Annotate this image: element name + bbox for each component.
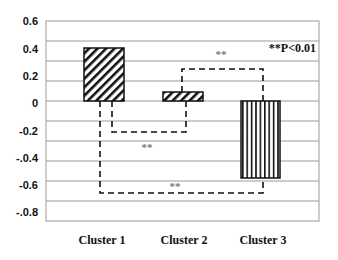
significance-stars-2-3: ** [216, 48, 228, 60]
bar-cluster-3 [241, 101, 280, 178]
y-tick: 0.6 [23, 15, 38, 27]
bar-cluster-1 [84, 48, 124, 101]
y-tick: -.0.4 [16, 152, 39, 164]
y-tick: -0.2 [19, 125, 38, 137]
x-axis-labels: Cluster 1 Cluster 2 Cluster 3 [79, 233, 287, 247]
p-value-note: **P<0.01 [269, 41, 316, 55]
y-tick: -.0.8 [16, 206, 38, 218]
significance-stars-1-3: ** [170, 180, 182, 192]
x-tick-cluster-1: Cluster 1 [79, 233, 126, 247]
y-tick: 0.4 [23, 43, 39, 55]
x-tick-cluster-2: Cluster 2 [161, 233, 208, 247]
x-tick-cluster-3: Cluster 3 [240, 233, 287, 247]
bar-cluster-2 [163, 92, 203, 101]
y-tick: 0.2 [23, 70, 38, 82]
significance-stars-1-2: ** [142, 141, 154, 153]
y-axis-labels: 0.6 0.4 0.2 0 -0.2 -.0.4 -0.6 -.0.8 [16, 15, 39, 218]
y-tick: 0 [32, 97, 38, 109]
y-tick: -0.6 [19, 179, 38, 191]
bar-chart: 0.6 0.4 0.2 0 -0.2 -.0.4 -0.6 -.0.8 ** *… [0, 0, 338, 260]
